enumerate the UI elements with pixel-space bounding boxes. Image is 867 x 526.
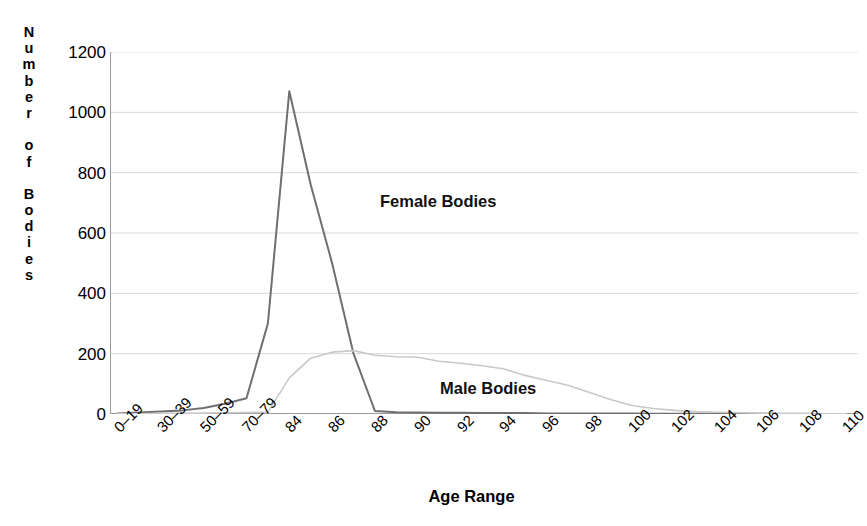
y-axis-title-letter: i — [27, 234, 31, 250]
x-axis-title: Age Range — [0, 487, 867, 506]
x-axis-tick-labels: 0–1930–3950–5970–79848688909294969810010… — [0, 418, 867, 488]
series-annotation-male: Male Bodies — [440, 379, 536, 398]
x-axis-tick-label: 88 — [368, 412, 390, 434]
y-axis-title-letter: N — [24, 24, 34, 40]
y-axis-title-letter: m — [23, 56, 36, 72]
x-axis-tick-label: 92 — [454, 412, 476, 434]
y-axis-title-letter: u — [25, 40, 34, 56]
y-axis-title-letter: e — [25, 89, 33, 105]
x-axis-tick-label: 86 — [325, 412, 347, 434]
y-axis-title-letter: s — [25, 267, 33, 283]
y-axis-title-letter: o — [25, 137, 34, 153]
y-axis-title-letter: o — [25, 202, 34, 218]
x-axis-tick-label: 94 — [496, 412, 518, 434]
y-axis-title: NumberofBodies — [16, 24, 42, 283]
y-axis-tick-label: 1000 — [48, 104, 106, 121]
y-axis-tick-label: 1200 — [48, 44, 106, 61]
x-axis-tick-label: 84 — [282, 412, 304, 434]
y-axis-tick-label: 600 — [48, 225, 106, 242]
y-axis-title-letter: e — [25, 251, 33, 267]
chart-container: NumberofBodies 020040060080010001200 Fem… — [0, 0, 867, 526]
y-axis-tick-label: 400 — [48, 285, 106, 302]
y-axis-tick-label: 200 — [48, 346, 106, 363]
y-axis-title-letter: f — [27, 154, 32, 170]
gridlines — [110, 52, 858, 414]
y-axis-tick-label: 800 — [48, 165, 106, 182]
y-axis-title-letter: d — [25, 218, 34, 234]
y-axis-title-letter: b — [25, 73, 34, 89]
x-axis-tick-label: 98 — [582, 412, 604, 434]
y-axis-title-letter: B — [24, 186, 34, 202]
series-annotation-female: Female Bodies — [380, 192, 496, 211]
y-axis-title-letter: r — [26, 105, 32, 121]
plot-area: Female Bodies Male Bodies — [110, 52, 858, 414]
chart-svg — [110, 52, 858, 414]
series-layer — [118, 91, 846, 414]
x-axis-title-text: Age Range — [428, 487, 514, 505]
x-axis-tick-label: 96 — [539, 412, 561, 434]
x-axis-tick-label: 90 — [411, 412, 433, 434]
